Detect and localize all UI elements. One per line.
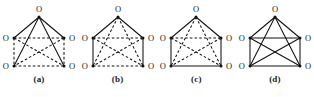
edge-group (93, 17, 143, 66)
edge-top-upper-left (250, 17, 275, 38)
vertex-label-top: O (36, 4, 42, 14)
graph-diagram: OOOOO (0, 0, 78, 76)
edge-top-upper-right (39, 17, 64, 38)
vertex-label-upper-right: O (148, 33, 154, 43)
vertex-label-upper-right: O (305, 33, 311, 43)
figure-caption: (b) (112, 74, 124, 84)
edge-group (171, 17, 221, 66)
graph-diagram: OOOOO (79, 0, 157, 76)
vertex-label-upper-left: O (3, 33, 9, 43)
edge-top-upper-right (196, 17, 221, 38)
edge-top-upper-left (14, 17, 39, 38)
figure-panel-b: OOOOO(b) (79, 0, 157, 97)
edge-top-upper-left (171, 17, 196, 38)
vertex-label-lower-right: O (226, 61, 232, 71)
vertex-dot-lower-left (13, 65, 16, 68)
graph-diagram: OOOOO (236, 0, 314, 76)
vertex-label-upper-left: O (239, 33, 245, 43)
graph-diagram: OOOOO (157, 0, 235, 76)
vertex-label-upper-left: O (82, 33, 88, 43)
vertex-group: OOOOO (3, 4, 75, 72)
vertex-dot-upper-right (220, 37, 223, 40)
figure-caption: (c) (191, 74, 202, 84)
vertex-dot-lower-right (220, 65, 223, 68)
vertex-label-lower-left: O (160, 61, 166, 71)
figure-panel-d: OOOOO(d) (236, 0, 314, 97)
vertex-dot-lower-left (170, 65, 173, 68)
vertex-dot-upper-left (248, 37, 251, 40)
vertex-dot-top (195, 16, 198, 19)
vertex-dot-upper-right (141, 37, 144, 40)
vertex-dot-top (273, 16, 276, 19)
vertex-dot-upper-left (13, 37, 16, 40)
edge-top-upper-right (118, 17, 143, 38)
vertex-dot-upper-left (170, 37, 173, 40)
edge-group (250, 17, 300, 66)
figure-panel-a: OOOOO(a) (0, 0, 78, 97)
vertex-dot-top (38, 16, 41, 19)
vertex-label-lower-right: O (305, 61, 311, 71)
vertex-label-lower-left: O (3, 61, 9, 71)
vertex-dot-lower-left (91, 65, 94, 68)
vertex-dot-lower-right (63, 65, 66, 68)
figure-caption: (a) (33, 74, 44, 84)
vertex-dot-lower-right (298, 65, 301, 68)
vertex-label-lower-right: O (148, 61, 154, 71)
edge-group (14, 17, 64, 66)
edge-top-upper-left (93, 17, 118, 38)
vertex-dot-lower-left (248, 65, 251, 68)
vertex-dot-top (116, 16, 119, 19)
vertex-label-upper-right: O (226, 33, 232, 43)
vertex-label-top: O (193, 4, 199, 14)
vertex-label-lower-left: O (239, 61, 245, 71)
vertex-dot-upper-right (298, 37, 301, 40)
vertex-dot-lower-right (141, 65, 144, 68)
edge-top-upper-right (275, 17, 300, 38)
vertex-label-lower-right: O (69, 61, 75, 71)
vertex-label-lower-left: O (82, 61, 88, 71)
figure-panel-c: OOOOO(c) (157, 0, 235, 97)
vertex-label-top: O (272, 4, 278, 14)
vertex-label-upper-right: O (69, 33, 75, 43)
vertex-label-top: O (115, 4, 121, 14)
figure-strip: OOOOO(a)OOOOO(b)OOOOO(c)OOOOO(d) (0, 0, 314, 97)
vertex-dot-upper-right (63, 37, 66, 40)
vertex-label-upper-left: O (160, 33, 166, 43)
vertex-dot-upper-left (91, 37, 94, 40)
figure-caption: (d) (269, 74, 281, 84)
